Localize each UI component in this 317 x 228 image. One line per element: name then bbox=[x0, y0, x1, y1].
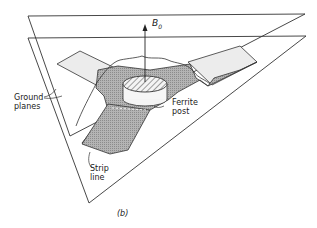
strip-line-label: Strip line bbox=[90, 164, 109, 182]
ferrite-label-line2: post bbox=[172, 107, 198, 116]
strip-label-line2: line bbox=[90, 173, 109, 182]
figure-caption: (b) bbox=[117, 209, 128, 218]
arrow-head-icon bbox=[143, 24, 148, 31]
ground-label-line1: Ground bbox=[14, 93, 43, 102]
field-label: B0 bbox=[152, 19, 162, 31]
strip-label-line1: Strip bbox=[90, 164, 109, 173]
diagram-drawing bbox=[0, 0, 317, 228]
strip-arm-front bbox=[82, 104, 150, 154]
ferrite-post-label: Ferrite post bbox=[172, 98, 198, 116]
field-subscript: 0 bbox=[158, 23, 162, 30]
circulator-diagram: B0 Ground planes Ferrite post Strip line… bbox=[0, 0, 317, 228]
ground-planes-label: Ground planes bbox=[14, 93, 43, 111]
ferrite-label-line1: Ferrite bbox=[172, 98, 198, 107]
ground-label-line2: planes bbox=[14, 102, 43, 111]
